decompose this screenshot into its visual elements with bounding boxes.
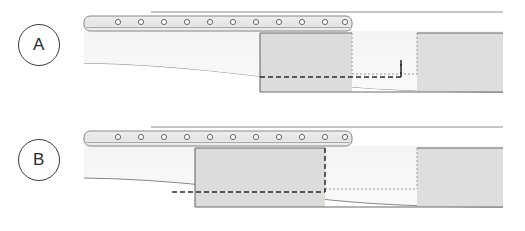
panel-a-drawing bbox=[0, 0, 525, 116]
left-gray-block bbox=[195, 148, 325, 207]
rivet-icon bbox=[342, 134, 347, 139]
rivet-icon bbox=[207, 134, 212, 139]
rivet-icon bbox=[253, 134, 258, 139]
rivet-icon bbox=[138, 19, 143, 24]
rivet-icon bbox=[207, 19, 212, 24]
rivet-icon bbox=[161, 134, 166, 139]
rivet-icon bbox=[276, 19, 281, 24]
right-gray-block bbox=[417, 148, 503, 207]
rivet-icon bbox=[184, 134, 189, 139]
rivet-icon bbox=[322, 134, 327, 139]
right-gray-block bbox=[417, 33, 503, 92]
rivet-icon bbox=[115, 134, 120, 139]
panel-b-drawing bbox=[0, 115, 525, 231]
rivet-icon bbox=[230, 134, 235, 139]
rivet-icon bbox=[115, 19, 120, 24]
rivet-icon bbox=[253, 19, 258, 24]
rivet-icon bbox=[276, 134, 281, 139]
rivet-icon bbox=[161, 19, 166, 24]
diagram-canvas: A bbox=[0, 0, 525, 231]
rivet-icon bbox=[230, 19, 235, 24]
rivet-icon bbox=[342, 19, 347, 24]
fastener-strip bbox=[84, 131, 352, 146]
rivet-icon bbox=[184, 19, 189, 24]
rivet-icon bbox=[322, 19, 327, 24]
panel-b: B bbox=[0, 115, 525, 231]
fastener-strip bbox=[84, 16, 352, 31]
rivet-icon bbox=[299, 134, 304, 139]
rivet-icon bbox=[138, 134, 143, 139]
rivet-icon bbox=[299, 19, 304, 24]
left-gray-block bbox=[260, 33, 352, 92]
panel-a: A bbox=[0, 0, 525, 116]
